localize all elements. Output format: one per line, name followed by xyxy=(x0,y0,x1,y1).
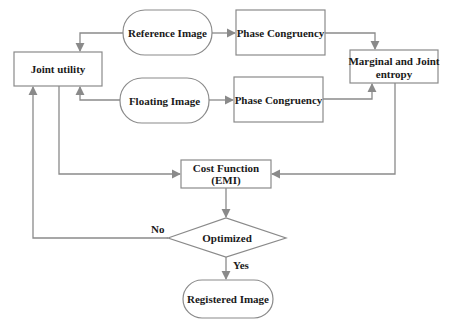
edge-phase2-to-entropy xyxy=(323,84,372,99)
node-phase-congruency-2: Phase Congruency xyxy=(234,77,323,122)
edge-label-yes: Yes xyxy=(233,259,250,271)
node-label-line1: Marginal and Joint xyxy=(348,55,439,67)
node-phase-congruency-1: Phase Congruency xyxy=(236,10,325,55)
node-label: Joint utility xyxy=(31,63,86,75)
node-label-line2: (EMI) xyxy=(211,174,241,187)
edge-phase1-to-entropy xyxy=(325,33,375,49)
node-registered-image: Registered Image xyxy=(183,280,273,318)
node-label: Registered Image xyxy=(187,293,269,305)
flowchart-canvas: Reference Image Phase Congruency Joint u… xyxy=(0,0,450,331)
node-marginal-joint-entropy: Marginal and Joint entropy xyxy=(348,50,439,83)
node-label-line2: entropy xyxy=(376,68,413,80)
edge-label-no: No xyxy=(151,223,165,235)
node-reference-image: Reference Image xyxy=(123,10,212,55)
node-label: Optimized xyxy=(202,232,252,244)
node-joint-utility: Joint utility xyxy=(14,52,102,86)
node-label: Floating Image xyxy=(129,95,200,107)
node-optimized: Optimized xyxy=(168,218,286,257)
node-label: Reference Image xyxy=(128,27,207,39)
node-label-line1: Cost Function xyxy=(193,162,259,174)
node-label: Phase Congruency xyxy=(237,27,325,39)
edge-reference-to-joint-utility xyxy=(80,33,123,51)
node-floating-image: Floating Image xyxy=(120,78,209,123)
node-label: Phase Congruency xyxy=(235,94,323,106)
node-cost-function: Cost Function (EMI) xyxy=(181,160,271,188)
edge-floating-to-joint-utility xyxy=(80,87,120,100)
